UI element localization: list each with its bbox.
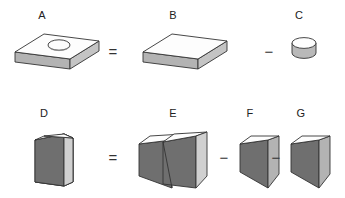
shape-label-g: G [291,108,311,119]
shape-g-prism [287,126,339,190]
shape-label-e: E [163,108,183,119]
operator-equals-row1: = [105,44,121,59]
shape-label-c: C [289,10,309,21]
shape-b-slab [142,28,234,72]
operator-equals-row2: = [105,150,121,165]
operator-minus-row2-second: − [268,150,284,165]
figure-canvas: A B C = − [0,0,345,198]
shape-label-d: D [34,108,54,119]
operator-minus-row1: − [261,44,277,59]
shape-d-wedge [30,126,84,190]
shape-label-b: B [163,10,183,21]
shape-label-f: F [240,108,260,119]
shape-c-cylinder [289,36,323,66]
operator-minus-row2-first: − [216,150,232,165]
shape-label-a: A [32,10,52,21]
shape-a-slab-with-hole [14,28,106,72]
shape-e-double-prism [136,126,216,190]
